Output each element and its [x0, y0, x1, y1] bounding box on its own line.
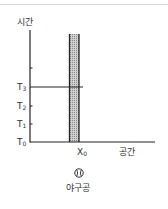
tick-label-t0: T0 [17, 137, 26, 149]
tick-label-t3: T3 [17, 82, 26, 94]
baseball-icon [75, 169, 83, 177]
tick-label-t2-sub: 2 [23, 104, 27, 111]
tick-label-t1-sub: 1 [23, 122, 27, 129]
tick-label-t1: T1 [17, 119, 26, 131]
tick-label-t0-sub: 0 [23, 140, 27, 147]
tick-label-t3-sub: 3 [23, 85, 27, 92]
tick-label-t2: T2 [17, 101, 26, 113]
y-axis-label: 시간 [17, 17, 33, 27]
position-label-sub: 0 [83, 150, 87, 157]
object-label: 야구공 [66, 183, 90, 193]
x-axis-label: 공간 [119, 147, 135, 157]
worldline-band [70, 34, 80, 142]
position-label-x0: X0 [77, 147, 87, 159]
